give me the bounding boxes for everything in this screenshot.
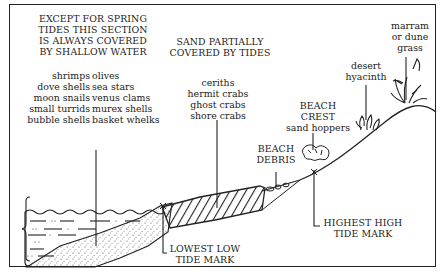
depth-brace bbox=[22, 197, 30, 261]
lowest-low-tide-label: LOWEST LOW TIDE MARK bbox=[167, 243, 243, 265]
intertidal-sand-band bbox=[162, 186, 265, 228]
intertidal-header-label: SAND PARTIALLY COVERED BY TIDES bbox=[165, 36, 275, 58]
beach-debris-label: BEACH DEBRIS bbox=[251, 143, 301, 165]
submerged-sand-slope bbox=[27, 203, 172, 267]
highest-high-tide-label: HIGHEST HIGH TIDE MARK bbox=[318, 217, 408, 239]
beach-crest-label: BEACH CREST bbox=[288, 100, 348, 122]
subtidal-organisms-right: olives sea stars venus clams murex shell… bbox=[92, 70, 164, 125]
marram-grass-label: marram or dune grass bbox=[386, 20, 434, 53]
desert-hyacinth-icon bbox=[356, 115, 379, 130]
subtidal-header-label: EXCEPT FOR SPRING TIDES THIS SECTION IS … bbox=[28, 13, 158, 57]
marram-grass-icon bbox=[391, 59, 427, 103]
sand-hopper-clump-icon bbox=[302, 145, 329, 161]
desert-hyacinth-label: desert hyacinth bbox=[338, 60, 394, 82]
subtidal-organisms-left: shrimps dove shells moon snails small tu… bbox=[14, 70, 90, 125]
beach-crest-organisms: sand hoppers bbox=[280, 122, 356, 133]
intertidal-organisms: ceriths hermit crabs ghost crabs shore c… bbox=[178, 77, 258, 121]
